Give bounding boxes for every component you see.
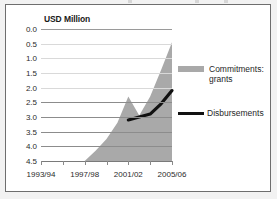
gridline <box>41 88 172 89</box>
y-tick-label: 3.5 <box>26 127 37 136</box>
legend-item[interactable]: Commitments: grants <box>178 64 264 84</box>
x-tick-label: 2001/02 <box>114 170 143 179</box>
y-tick-label: 0.5 <box>26 39 37 48</box>
gridline <box>41 132 172 133</box>
x-tick-label: 2005/06 <box>158 170 187 179</box>
y-tick-label: 1.5 <box>26 69 37 78</box>
x-axis-tick <box>172 161 173 165</box>
series-canvas <box>41 29 172 161</box>
chart-title: USD Million <box>44 14 90 24</box>
legend-label: Commitments: grants <box>209 64 264 84</box>
legend-item[interactable]: Disbursements <box>178 108 264 118</box>
y-tick-label: 0.0 <box>26 25 37 34</box>
x-axis-tick <box>150 161 151 165</box>
x-axis-tick <box>128 161 129 165</box>
y-tick-label: 2.5 <box>26 98 37 107</box>
gridline <box>41 44 172 45</box>
x-axis-tick <box>107 161 108 165</box>
y-tick-label: 4.0 <box>26 142 37 151</box>
x-axis-tick <box>41 161 42 165</box>
x-axis-tick <box>85 161 86 165</box>
legend-line-swatch-icon <box>178 112 204 115</box>
legend-label: Disbursements <box>207 108 264 118</box>
gridline <box>41 73 172 74</box>
gridline <box>41 58 172 59</box>
scan-artifact <box>195 0 199 3</box>
gridline <box>41 102 172 103</box>
y-tick-label: 2.0 <box>26 83 37 92</box>
scan-artifact <box>224 0 228 3</box>
y-tick-label: 1.0 <box>26 54 37 63</box>
plot-area: 4.54.03.53.02.52.01.51.00.50.0 <box>41 29 172 161</box>
scan-artifact <box>128 0 132 3</box>
y-tick-label: 3.0 <box>26 113 37 122</box>
chart-figure: USD Million 4.54.03.53.02.52.01.51.00.50… <box>0 0 277 199</box>
legend-area-swatch-icon <box>178 66 204 72</box>
gridline <box>41 29 172 30</box>
gridline <box>41 146 172 147</box>
x-axis-tick <box>63 161 64 165</box>
gridline <box>41 117 172 118</box>
y-tick-label: 4.5 <box>26 157 37 166</box>
x-tick-label: 1993/94 <box>27 170 56 179</box>
x-tick-label: 1997/98 <box>70 170 99 179</box>
